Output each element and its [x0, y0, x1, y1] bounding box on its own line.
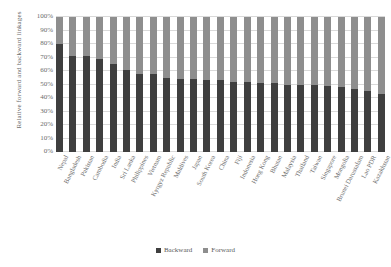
- bar-column[interactable]: [297, 17, 304, 152]
- bar-column[interactable]: [96, 17, 103, 152]
- bar-segment-backward[interactable]: [110, 64, 117, 152]
- bar-segment-backward[interactable]: [163, 78, 170, 152]
- x-axis-tick-label: Fiji: [233, 154, 243, 165]
- y-axis-tick-label: 20%: [40, 121, 53, 128]
- bar-segment-forward[interactable]: [338, 17, 345, 87]
- y-axis-tick-label: 30%: [40, 107, 53, 114]
- bar-segment-backward[interactable]: [203, 80, 210, 152]
- bar-column[interactable]: [271, 17, 278, 152]
- chart-legend: BackwardForward: [0, 246, 391, 254]
- y-axis-tick-label: 50%: [40, 80, 53, 87]
- bar-segment-forward[interactable]: [364, 17, 371, 91]
- bar-column[interactable]: [311, 17, 318, 152]
- bar-column[interactable]: [150, 17, 157, 152]
- bar-segment-backward[interactable]: [123, 70, 130, 152]
- bar-column[interactable]: [136, 17, 143, 152]
- bar-segment-backward[interactable]: [311, 85, 318, 153]
- bar-column[interactable]: [56, 17, 63, 152]
- bar-segment-backward[interactable]: [230, 82, 237, 152]
- bar-column[interactable]: [177, 17, 184, 152]
- x-axis-tick-label: Japan: [190, 154, 203, 171]
- bar-segment-forward[interactable]: [271, 17, 278, 83]
- bar-segment-forward[interactable]: [69, 17, 76, 56]
- bar-segment-forward[interactable]: [297, 17, 304, 85]
- legend-swatch-icon: [203, 248, 208, 253]
- bar-segment-forward[interactable]: [150, 17, 157, 74]
- bar-segment-forward[interactable]: [56, 17, 63, 44]
- bar-segment-forward[interactable]: [230, 17, 237, 82]
- x-axis-tick-label: Nepal: [55, 154, 68, 171]
- x-axis-tick-label: China: [216, 154, 229, 171]
- bar-column[interactable]: [324, 17, 331, 152]
- bar-segment-backward[interactable]: [136, 74, 143, 152]
- bar-column[interactable]: [244, 17, 251, 152]
- y-axis-tick-label: 70%: [40, 53, 53, 60]
- bar-segment-forward[interactable]: [217, 17, 224, 80]
- bar-column[interactable]: [257, 17, 264, 152]
- bar-segment-forward[interactable]: [311, 17, 318, 85]
- bar-segment-forward[interactable]: [244, 17, 251, 82]
- bar-segment-backward[interactable]: [351, 89, 358, 152]
- bar-segment-forward[interactable]: [123, 17, 130, 70]
- bar-segment-forward[interactable]: [177, 17, 184, 79]
- bar-column[interactable]: [284, 17, 291, 152]
- bar-column[interactable]: [351, 17, 358, 152]
- bar-column[interactable]: [110, 17, 117, 152]
- bar-segment-backward[interactable]: [364, 91, 371, 152]
- bar-column[interactable]: [83, 17, 90, 152]
- y-axis-tick-label: 80%: [40, 40, 53, 47]
- bar-segment-backward[interactable]: [297, 85, 304, 153]
- bar-segment-forward[interactable]: [110, 17, 117, 64]
- bar-segment-backward[interactable]: [190, 79, 197, 152]
- bar-column[interactable]: [203, 17, 210, 152]
- bar-segment-backward[interactable]: [338, 87, 345, 152]
- y-axis-tick-label: 100%: [37, 13, 53, 20]
- bar-segment-forward[interactable]: [257, 17, 264, 83]
- bar-column[interactable]: [69, 17, 76, 152]
- bar-segment-backward[interactable]: [324, 86, 331, 152]
- bar-segment-backward[interactable]: [56, 44, 63, 152]
- bar-column[interactable]: [364, 17, 371, 152]
- legend-label: Backward: [164, 246, 192, 254]
- bar-segment-backward[interactable]: [378, 94, 385, 152]
- y-axis-tick-label: 10%: [40, 134, 53, 141]
- bar-segment-backward[interactable]: [83, 56, 90, 152]
- bar-segment-forward[interactable]: [351, 17, 358, 89]
- bar-segment-backward[interactable]: [271, 83, 278, 152]
- bar-column[interactable]: [217, 17, 224, 152]
- y-axis-tick-label: 0%: [44, 148, 53, 155]
- bar-segment-forward[interactable]: [284, 17, 291, 85]
- bar-segment-backward[interactable]: [244, 82, 251, 152]
- y-axis-tick-label: 60%: [40, 67, 53, 74]
- bar-segment-forward[interactable]: [96, 17, 103, 59]
- bar-column[interactable]: [123, 17, 130, 152]
- bar-series-group: [56, 17, 385, 152]
- bar-segment-forward[interactable]: [83, 17, 90, 56]
- bar-segment-forward[interactable]: [190, 17, 197, 79]
- bar-segment-forward[interactable]: [136, 17, 143, 74]
- bar-column[interactable]: [378, 17, 385, 152]
- y-axis-tick-label: 40%: [40, 94, 53, 101]
- bar-segment-backward[interactable]: [96, 59, 103, 152]
- legend-swatch-icon: [156, 248, 161, 253]
- bar-segment-forward[interactable]: [203, 17, 210, 80]
- chart-container: Relative forward and backward linkages 0…: [0, 0, 391, 267]
- bar-segment-forward[interactable]: [163, 17, 170, 78]
- x-axis-labels: NepalBangladeshPakistanCambodiaIndiaSri …: [56, 154, 385, 239]
- bar-column[interactable]: [190, 17, 197, 152]
- bar-segment-backward[interactable]: [284, 85, 291, 153]
- legend-label: Forward: [211, 246, 235, 254]
- bar-segment-forward[interactable]: [378, 17, 385, 94]
- legend-item[interactable]: Backward: [156, 246, 192, 254]
- bar-column[interactable]: [230, 17, 237, 152]
- y-axis-tick-label: 90%: [40, 26, 53, 33]
- bar-segment-backward[interactable]: [69, 56, 76, 152]
- bar-segment-backward[interactable]: [217, 80, 224, 152]
- bar-segment-forward[interactable]: [324, 17, 331, 86]
- legend-item[interactable]: Forward: [203, 246, 235, 254]
- bar-segment-backward[interactable]: [177, 79, 184, 152]
- bar-column[interactable]: [163, 17, 170, 152]
- bar-segment-backward[interactable]: [150, 74, 157, 152]
- bar-column[interactable]: [338, 17, 345, 152]
- bar-segment-backward[interactable]: [257, 83, 264, 152]
